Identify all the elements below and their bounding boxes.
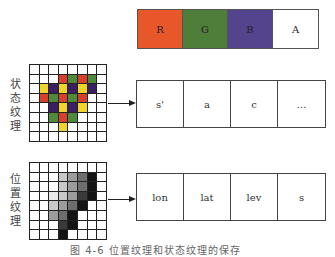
- texel: [68, 230, 78, 240]
- texel: [30, 182, 40, 192]
- texel: [30, 163, 40, 173]
- channel-a: A: [273, 10, 318, 48]
- texel: [78, 192, 88, 202]
- texel: [40, 123, 50, 133]
- texel: [97, 201, 107, 211]
- texel: [30, 103, 40, 113]
- texel: [68, 192, 78, 202]
- texel: [68, 94, 78, 104]
- texel: [59, 94, 69, 104]
- label-char: 状: [8, 78, 22, 92]
- texel: [88, 75, 98, 85]
- texel: [40, 113, 50, 123]
- texel: [59, 123, 69, 133]
- texel: [49, 192, 59, 202]
- texel: [30, 123, 40, 133]
- texel: [68, 173, 78, 183]
- texel: [30, 192, 40, 202]
- texel: [30, 94, 40, 104]
- texel: [49, 201, 59, 211]
- texel: [68, 65, 78, 75]
- texel: [40, 230, 50, 240]
- texel: [78, 230, 88, 240]
- texel: [78, 163, 88, 173]
- texel: [88, 94, 98, 104]
- texel: [40, 201, 50, 211]
- texel: [97, 123, 107, 133]
- texel: [68, 84, 78, 94]
- texel: [68, 113, 78, 123]
- position-texture-label: 位 置 纹 理: [8, 173, 22, 229]
- texel: [78, 84, 88, 94]
- texel: [49, 132, 59, 142]
- texel: [30, 84, 40, 94]
- texel: [88, 230, 98, 240]
- texel: [78, 65, 88, 75]
- texel: [68, 132, 78, 142]
- texel: [97, 163, 107, 173]
- texel: [49, 230, 59, 240]
- texel: [40, 163, 50, 173]
- texel: [88, 123, 98, 133]
- texel: [49, 123, 59, 133]
- texel: [59, 75, 69, 85]
- texel: [30, 221, 40, 231]
- texel: [30, 132, 40, 142]
- channel-g: G: [183, 10, 228, 48]
- texel: [97, 173, 107, 183]
- position-fields-row: lon lat lev s: [136, 173, 326, 221]
- texel: [68, 75, 78, 85]
- texel: [49, 75, 59, 85]
- texel: [59, 163, 69, 173]
- texel: [40, 221, 50, 231]
- texel: [30, 201, 40, 211]
- texel: [88, 84, 98, 94]
- texel: [78, 113, 88, 123]
- texel: [30, 75, 40, 85]
- texel: [40, 65, 50, 75]
- texel: [88, 211, 98, 221]
- texel: [59, 84, 69, 94]
- texel: [97, 113, 107, 123]
- texel: [78, 75, 88, 85]
- position-field: s: [278, 174, 325, 220]
- texel: [68, 211, 78, 221]
- texel: [59, 201, 69, 211]
- texel: [59, 103, 69, 113]
- texel: [88, 132, 98, 142]
- state-texture-label: 状 态 纹 理: [8, 78, 22, 134]
- state-arrow-line: [108, 103, 130, 104]
- texel: [88, 182, 98, 192]
- figure-caption: 图 4-6 位置纹理和状态纹理的保存: [70, 242, 241, 257]
- texel: [78, 182, 88, 192]
- texel: [97, 65, 107, 75]
- label-char: 理: [8, 215, 22, 229]
- texel: [68, 163, 78, 173]
- texel: [88, 113, 98, 123]
- texel: [40, 182, 50, 192]
- texel: [88, 221, 98, 231]
- texel: [88, 192, 98, 202]
- label-char: 置: [8, 187, 22, 201]
- texel: [97, 230, 107, 240]
- texel: [78, 132, 88, 142]
- texel: [97, 94, 107, 104]
- texel: [49, 221, 59, 231]
- texel: [40, 173, 50, 183]
- texel: [30, 230, 40, 240]
- texel: [97, 192, 107, 202]
- texel: [59, 65, 69, 75]
- texel: [40, 103, 50, 113]
- state-fields-row: s' a c …: [136, 80, 326, 128]
- channel-b: B: [228, 10, 273, 48]
- state-texture-grid: [29, 64, 107, 142]
- texel: [49, 113, 59, 123]
- texel: [78, 103, 88, 113]
- texel: [78, 173, 88, 183]
- label-char: 纹: [8, 201, 22, 215]
- texel: [49, 94, 59, 104]
- texel: [88, 173, 98, 183]
- texel: [40, 84, 50, 94]
- texel: [88, 65, 98, 75]
- state-field: s': [137, 81, 184, 127]
